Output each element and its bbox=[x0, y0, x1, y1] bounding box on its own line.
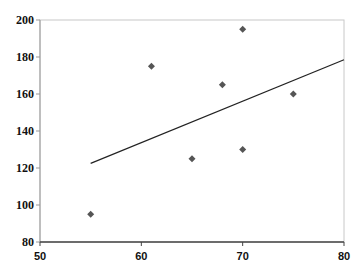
plot-area bbox=[40, 20, 344, 242]
scatter-chart: 80100120140160180200 50607080 bbox=[0, 0, 359, 276]
x-axis: 50607080 bbox=[34, 242, 350, 262]
x-tick-label: 80 bbox=[338, 250, 350, 262]
y-tick-label: 100 bbox=[16, 198, 34, 212]
x-tick-label: 60 bbox=[135, 250, 147, 262]
x-tick-label: 50 bbox=[34, 250, 46, 262]
y-tick-label: 140 bbox=[16, 124, 34, 138]
y-axis: 80100120140160180200 bbox=[16, 13, 40, 249]
y-tick-label: 120 bbox=[16, 161, 34, 175]
y-tick-label: 200 bbox=[16, 13, 34, 27]
y-tick-label: 180 bbox=[16, 50, 34, 64]
y-tick-label: 160 bbox=[16, 87, 34, 101]
x-tick-label: 70 bbox=[237, 250, 249, 262]
y-tick-label: 80 bbox=[22, 235, 34, 249]
